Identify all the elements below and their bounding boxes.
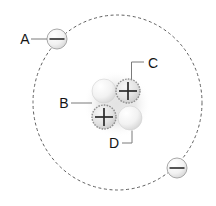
label-c: C xyxy=(148,55,158,71)
proton-sphere xyxy=(92,105,116,129)
label-b: B xyxy=(59,95,68,111)
diagram-canvas: A B C D xyxy=(0,0,216,206)
neutron-sphere xyxy=(92,79,116,103)
atom-diagram: A B C D xyxy=(0,0,216,206)
label-d: D xyxy=(109,135,119,151)
nucleus-glow xyxy=(83,70,151,138)
electron-sphere xyxy=(167,158,187,178)
proton-sphere xyxy=(116,79,140,103)
label-a: A xyxy=(20,31,30,47)
electron-sphere xyxy=(47,29,67,49)
neutron-sphere xyxy=(118,106,142,130)
